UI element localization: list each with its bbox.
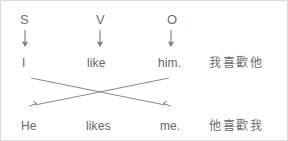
bottom-sentence-subject: He bbox=[21, 120, 37, 132]
arrow-subject-to-object bbox=[31, 78, 171, 106]
sentence-transformation-diagram: S V O I like him. 我喜歡他 bbox=[0, 0, 288, 141]
role-label-object: O bbox=[167, 13, 177, 26]
bottom-sentence-verb: likes bbox=[86, 120, 111, 132]
down-arrow-icon bbox=[94, 30, 106, 47]
bottom-sentence-object: me. bbox=[160, 120, 180, 132]
arrow-object-to-subject bbox=[29, 78, 169, 106]
top-sentence-object: him. bbox=[158, 57, 181, 69]
top-sentence-chinese-gloss: 我喜歡他 bbox=[209, 57, 263, 69]
role-label-verb: V bbox=[96, 13, 105, 26]
top-sentence-subject: I bbox=[22, 57, 25, 69]
role-label-subject: S bbox=[20, 13, 29, 26]
down-arrow-icon bbox=[19, 30, 31, 47]
bottom-sentence-chinese-gloss: 他喜歡我 bbox=[209, 120, 263, 132]
top-sentence-verb: like bbox=[87, 57, 105, 69]
down-arrow-icon bbox=[165, 30, 177, 47]
